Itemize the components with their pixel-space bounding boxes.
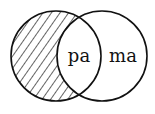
venn-diagram: pa ma xyxy=(0,0,155,114)
intersection-label: pa xyxy=(68,45,91,66)
right-only-label: ma xyxy=(109,45,137,66)
